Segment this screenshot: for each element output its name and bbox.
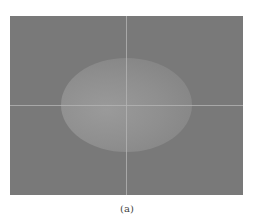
figure-caption: (a) xyxy=(0,203,254,214)
image-panel xyxy=(10,16,243,195)
crosshair-horizontal-line xyxy=(10,105,243,106)
